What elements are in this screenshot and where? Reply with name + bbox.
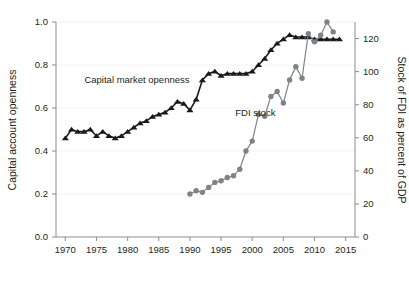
- right-axis-ticks: 020406080100120: [355, 33, 379, 242]
- x-tick-label: 1990: [179, 244, 200, 255]
- data-point-marker: [306, 31, 311, 36]
- x-tick-label: 1995: [211, 244, 232, 255]
- data-point-marker: [299, 76, 304, 81]
- data-point-marker: [330, 29, 335, 34]
- data-point-marker: [268, 94, 273, 99]
- series-annotations: Capital market opennessFDI stock: [84, 74, 275, 117]
- right-tick-label: 0: [363, 231, 368, 242]
- right-tick-label: 120: [363, 33, 379, 44]
- x-tick-label: 1970: [55, 244, 76, 255]
- x-tick-label: 2015: [335, 244, 356, 255]
- data-point-marker: [187, 191, 192, 196]
- data-point-marker: [99, 129, 106, 134]
- x-axis-ticks: 1970197519801985199019952000200520102015: [55, 237, 356, 255]
- data-point-marker: [200, 190, 205, 195]
- data-point-marker: [250, 138, 255, 143]
- right-tick-label: 100: [363, 66, 379, 77]
- data-point-marker: [318, 33, 323, 38]
- data-point-marker: [211, 69, 218, 74]
- data-point-marker: [231, 173, 236, 178]
- data-point-marker: [218, 178, 223, 183]
- left-axis: 0.00.20.40.60.81.0: [35, 16, 56, 242]
- series-label-2: FDI stock: [235, 107, 275, 118]
- bottom-axis: 1970197519801985199019952000200520102015: [55, 237, 356, 255]
- data-point-marker: [193, 188, 198, 193]
- data-point-marker: [174, 99, 181, 104]
- left-axis-ticks: 0.00.20.40.60.81.0: [35, 16, 56, 242]
- data-point-marker: [261, 56, 268, 61]
- data-point-marker: [312, 39, 317, 44]
- left-tick-label: 0.0: [35, 231, 48, 242]
- data-point-marker: [281, 100, 286, 105]
- x-tick-label: 1980: [117, 244, 138, 255]
- left-tick-label: 0.6: [35, 102, 48, 113]
- left-tick-label: 0.8: [35, 59, 48, 70]
- right-tick-label: 40: [363, 165, 374, 176]
- x-tick-label: 2010: [304, 244, 325, 255]
- right-tick-label: 80: [363, 99, 374, 110]
- y2-axis-title: Stock of FDI as percent of GDP: [396, 56, 408, 203]
- chart-figure: 0.00.20.40.60.81.0 020406080100120 19701…: [0, 0, 409, 284]
- data-point-marker: [293, 64, 298, 69]
- right-tick-label: 20: [363, 198, 374, 209]
- left-tick-label: 0.2: [35, 188, 48, 199]
- data-point-marker: [324, 19, 329, 24]
- data-point-marker: [286, 32, 293, 37]
- gridlines: [56, 22, 355, 237]
- x-tick-label: 2000: [242, 244, 263, 255]
- data-point-marker: [225, 175, 230, 180]
- series-line: [65, 35, 339, 138]
- data-point-marker: [274, 89, 279, 94]
- data-point-marker: [212, 180, 217, 185]
- x-tick-label: 2005: [273, 244, 294, 255]
- data-point-marker: [243, 148, 248, 153]
- data-point-marker: [62, 135, 69, 140]
- x-tick-label: 1975: [86, 244, 107, 255]
- right-tick-label: 60: [363, 132, 374, 143]
- data-point-marker: [193, 97, 200, 102]
- series-label-1: Capital market openness: [84, 74, 189, 85]
- data-point-marker: [206, 185, 211, 190]
- chart-canvas: 0.00.20.40.60.81.0 020406080100120 19701…: [0, 0, 409, 284]
- series-1: [62, 32, 343, 140]
- data-point-marker: [87, 127, 94, 132]
- data-point-marker: [237, 166, 242, 171]
- right-axis: 020406080100120: [355, 22, 379, 242]
- data-point-marker: [68, 127, 75, 132]
- left-tick-label: 0.4: [35, 145, 48, 156]
- data-point-marker: [287, 77, 292, 82]
- y-axis-title: Capital account openness: [6, 70, 18, 191]
- x-tick-label: 1985: [148, 244, 169, 255]
- left-tick-label: 1.0: [35, 16, 48, 27]
